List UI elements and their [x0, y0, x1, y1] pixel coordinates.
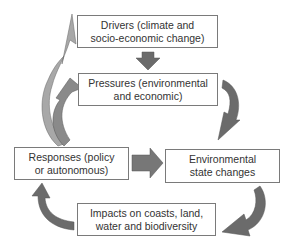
node-pressures: Pressures (environmental and economic) — [78, 73, 218, 106]
node-drivers-line1: Drivers (climate and — [91, 19, 205, 32]
node-state-line2: state changes — [189, 166, 256, 179]
arrow-drivers-to-pressures — [136, 52, 160, 70]
node-drivers: Drivers (climate and socio-economic chan… — [77, 15, 218, 48]
arrow-responses-to-state — [132, 148, 163, 178]
node-impacts: Impacts on coasts, land, water and biodi… — [77, 203, 216, 236]
arrow-pressures-to-state — [218, 80, 240, 140]
node-pressures-line1: Pressures (environmental — [88, 77, 208, 90]
node-impacts-line2: water and biodiversity — [90, 220, 203, 233]
arrow-impacts-to-responses — [32, 183, 74, 230]
node-state-line1: Environmental — [189, 153, 256, 166]
node-environmental-state: Environmental state changes — [165, 149, 280, 183]
node-responses: Responses (policy or autonomous) — [14, 147, 129, 180]
arrow-state-to-impacts — [222, 186, 265, 236]
node-drivers-line2: socio-economic change) — [91, 32, 205, 45]
node-impacts-line1: Impacts on coasts, land, — [90, 207, 203, 220]
node-responses-line2: or autonomous) — [29, 164, 115, 177]
node-pressures-line2: and economic) — [88, 90, 208, 103]
node-responses-line1: Responses (policy — [29, 151, 115, 164]
